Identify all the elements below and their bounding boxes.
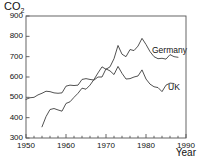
axes-frame <box>26 16 186 138</box>
co2-line-chart: CO2 Year 300400500600700800900 195019601… <box>0 0 199 158</box>
axis-ticks <box>26 16 186 138</box>
series-line-germany <box>42 38 178 126</box>
data-series <box>26 38 178 126</box>
series-line-uk <box>26 66 174 99</box>
plot-area <box>0 0 199 158</box>
